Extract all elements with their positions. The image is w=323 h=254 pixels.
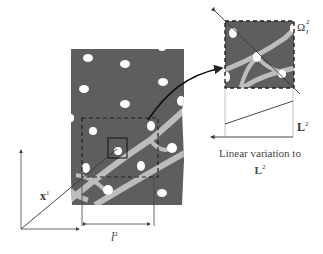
- micrograph: [68, 45, 190, 208]
- linear-variation-line: [225, 101, 293, 124]
- diagram-canvas: [0, 0, 323, 254]
- position-vector-label: x1: [40, 189, 50, 204]
- caption-line-1: Linear variation to: [208, 146, 312, 160]
- caption: Linear variation to L2: [208, 146, 312, 177]
- position-vector-superscript: 1: [46, 189, 50, 197]
- subdomain-symbol: Ω: [297, 21, 305, 33]
- macro-length-label: L2: [297, 120, 309, 135]
- caption-line-2: L2: [208, 160, 312, 177]
- subdomain-subscript: I: [306, 29, 308, 36]
- macro-length-symbol: L: [297, 120, 305, 134]
- subdomain-label: Ω 2 I: [297, 22, 305, 33]
- subdomain-superscript: 2: [306, 19, 310, 26]
- caption-symbol: L: [255, 164, 262, 176]
- caption-superscript: 2: [262, 163, 266, 171]
- cell-length-superscript: 2: [114, 230, 118, 238]
- macro-length-superscript: 2: [305, 120, 309, 128]
- cell-length-label: l2: [111, 230, 118, 245]
